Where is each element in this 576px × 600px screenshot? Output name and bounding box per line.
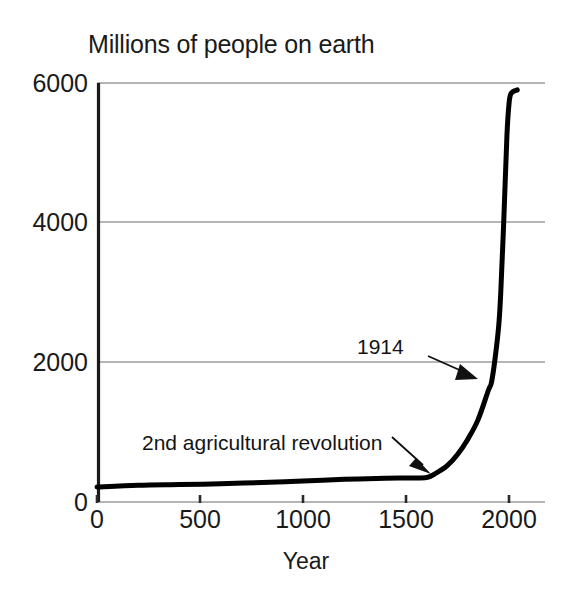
population-chart: Millions of people on earth 6000 4000 20… <box>0 0 576 600</box>
population-curve <box>97 90 517 487</box>
x-tick-label-1000: 1000 <box>275 505 331 533</box>
y-tick-label-0: 0 <box>74 488 88 516</box>
x-tick-label-0: 0 <box>90 505 104 533</box>
y-tick-label-6000: 6000 <box>32 69 88 97</box>
x-tick-label-500: 500 <box>179 505 221 533</box>
chart-canvas: Millions of people on earth 6000 4000 20… <box>0 0 576 600</box>
x-axis-title: Year <box>283 548 330 574</box>
annotation-agricultural-revolution: 2nd agricultural revolution <box>142 431 431 474</box>
annotation-arrow-head-agricultural-revolution <box>409 458 431 474</box>
x-tick-label-1500: 1500 <box>378 505 434 533</box>
annotation-label-agricultural-revolution: 2nd agricultural revolution <box>142 431 382 454</box>
chart-title: Millions of people on earth <box>88 30 374 58</box>
annotation-label-1914: 1914 <box>357 335 404 358</box>
annotation-1914: 1914 <box>357 335 478 380</box>
y-axis-tick-labels: 6000 4000 2000 0 <box>32 69 88 516</box>
y-tick-label-4000: 4000 <box>32 208 88 236</box>
y-tick-label-2000: 2000 <box>32 348 88 376</box>
annotation-arrow-head-1914 <box>455 364 478 380</box>
x-tick-label-2000: 2000 <box>481 505 537 533</box>
x-axis-tick-labels: 0 500 1000 1500 2000 <box>90 505 537 533</box>
